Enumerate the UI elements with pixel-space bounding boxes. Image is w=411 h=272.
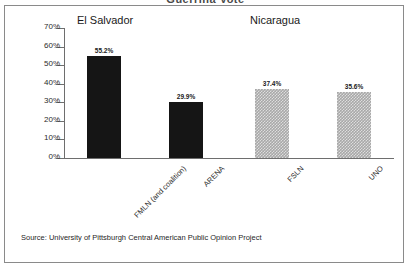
bar[interactable]: 55.2% bbox=[87, 56, 121, 159]
chart-title-cropped: Guerrilla Vote bbox=[0, 0, 411, 3]
chart-frame: El Salvador Nicaragua 0%10%20%30%40%50%6… bbox=[4, 5, 404, 263]
y-axis-tick-label: 70% bbox=[44, 22, 60, 31]
y-axis-tick-label: 10% bbox=[44, 133, 60, 142]
y-axis-tick-label: 40% bbox=[44, 78, 60, 87]
bar[interactable]: 29.9% bbox=[169, 102, 203, 158]
y-axis-tick-label: 30% bbox=[44, 96, 60, 105]
bar[interactable]: 35.6% bbox=[337, 92, 371, 158]
y-axis-tick-label: 50% bbox=[44, 59, 60, 68]
source-note: Source: University of Pittsburgh Central… bbox=[21, 233, 262, 242]
bar-value-label: 29.9% bbox=[177, 93, 195, 100]
category-label: ARENA bbox=[202, 164, 227, 189]
category-label: FMLN (and coalition) bbox=[132, 164, 188, 220]
bar[interactable]: 37.4% bbox=[255, 89, 289, 158]
group-heading-el-salvador: El Salvador bbox=[77, 14, 133, 26]
x-axis-line bbox=[56, 158, 394, 159]
group-heading-nicaragua: Nicaragua bbox=[250, 14, 300, 26]
plot-area: 0%10%20%30%40%50%60%70% 55.2%29.9%37.4%3… bbox=[64, 28, 394, 158]
y-axis-line bbox=[64, 28, 65, 158]
y-axis-tick-label: 60% bbox=[44, 41, 60, 50]
y-axis-tick-label: 0% bbox=[48, 152, 60, 161]
bar-value-label: 35.6% bbox=[345, 83, 363, 90]
y-axis-tick-label: 20% bbox=[44, 115, 60, 124]
bar-value-label: 37.4% bbox=[263, 80, 281, 87]
bar-value-label: 55.2% bbox=[95, 47, 113, 54]
category-label: FSLN bbox=[286, 164, 306, 184]
category-label: UNO bbox=[367, 164, 385, 182]
